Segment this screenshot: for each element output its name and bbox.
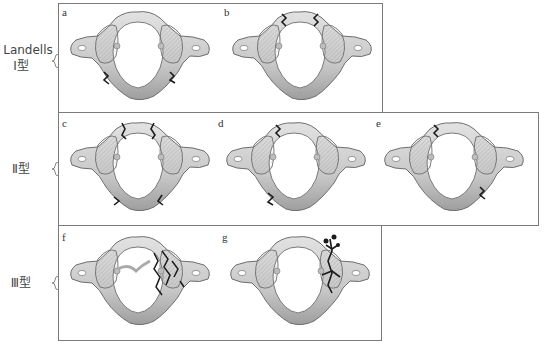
panel-c: c [62, 117, 217, 217]
panel-a: a [62, 6, 217, 106]
panel-d: d [218, 117, 373, 217]
panel-b: b [224, 6, 379, 106]
row-label-landells: Landells [2, 42, 54, 58]
row-label-type2-text: Ⅱ型 [6, 161, 36, 177]
panel-f: f [62, 231, 217, 331]
row-label-type3-text: Ⅲ型 [6, 275, 36, 291]
atlas-vertebra-illustration [376, 117, 531, 217]
panel-e: e [376, 117, 531, 217]
atlas-vertebra-illustration [222, 231, 377, 331]
row-label-type1: Landells Ⅰ型 [2, 42, 54, 74]
atlas-vertebra-illustration [62, 231, 217, 331]
atlas-vertebra-illustration [224, 6, 379, 106]
row-label-type2: Ⅱ型 [6, 161, 36, 177]
row-label-type1-text: Ⅰ型 [0, 58, 54, 74]
atlas-vertebra-illustration [218, 117, 373, 217]
atlas-vertebra-illustration [62, 6, 217, 106]
row-label-type3: Ⅲ型 [6, 275, 36, 291]
panel-g: g [222, 231, 377, 331]
atlas-vertebra-illustration [62, 117, 217, 217]
